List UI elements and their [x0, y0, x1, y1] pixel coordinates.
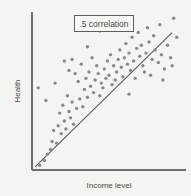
data-point [90, 56, 93, 59]
data-point [67, 110, 70, 113]
data-point [138, 55, 141, 58]
data-point [141, 64, 144, 67]
y-axis-label: Health [13, 79, 22, 102]
data-point [67, 69, 70, 72]
data-point [144, 51, 147, 54]
data-point [93, 78, 96, 81]
data-point [49, 148, 52, 151]
data-point [169, 56, 172, 59]
data-point [143, 70, 146, 73]
data-point [154, 48, 157, 51]
data-point [161, 78, 164, 81]
data-point [53, 81, 56, 84]
data-point [127, 92, 130, 95]
data-point [127, 51, 130, 54]
data-point [109, 53, 112, 56]
data-point [78, 97, 81, 100]
data-point [61, 104, 64, 107]
data-point [115, 70, 118, 73]
data-point [126, 62, 129, 65]
data-points [36, 17, 178, 167]
data-point [118, 48, 121, 51]
data-point [101, 86, 104, 89]
data-point [137, 31, 140, 34]
data-point [46, 153, 49, 156]
data-point [52, 129, 55, 132]
data-point [63, 119, 66, 122]
data-point [112, 64, 115, 67]
data-point [150, 58, 153, 61]
data-point [175, 36, 178, 39]
data-point [75, 107, 78, 110]
data-point [83, 88, 86, 91]
data-point [110, 83, 113, 86]
plot-canvas: .5 correlation Income level Health [0, 0, 191, 196]
data-point [38, 164, 41, 167]
data-point [123, 56, 126, 59]
data-point [107, 74, 110, 77]
data-point [69, 116, 72, 119]
data-point [50, 140, 53, 143]
data-point [98, 94, 101, 97]
data-point [81, 105, 84, 108]
data-point [86, 45, 89, 48]
data-point [36, 86, 39, 89]
data-point [140, 43, 143, 46]
data-point [64, 127, 67, 130]
data-point [84, 77, 87, 80]
regression-line [35, 33, 172, 167]
data-point [160, 53, 163, 56]
data-point [158, 23, 161, 26]
data-point [146, 26, 149, 29]
data-point [72, 122, 75, 125]
data-point [163, 67, 166, 70]
data-point [135, 47, 138, 50]
data-point [103, 67, 106, 70]
data-point [55, 141, 58, 144]
data-point [97, 72, 100, 75]
data-point [132, 59, 135, 62]
data-point [56, 124, 59, 127]
data-point [152, 34, 155, 37]
data-point [86, 96, 89, 99]
data-point [58, 111, 61, 114]
data-point [117, 58, 120, 61]
data-point [87, 70, 90, 73]
data-point [80, 62, 83, 65]
annotation-label: .5 correlation [79, 19, 128, 29]
data-point [133, 77, 136, 80]
data-point [129, 69, 132, 72]
data-point [89, 85, 92, 88]
data-point [95, 64, 98, 67]
data-point [130, 36, 133, 39]
data-point [121, 75, 124, 78]
x-axis-label: Income level [87, 181, 132, 190]
data-point [113, 78, 116, 81]
data-point [120, 66, 123, 69]
data-point [73, 72, 76, 75]
data-point [166, 43, 169, 46]
data-point [104, 77, 107, 80]
data-point [170, 64, 173, 67]
data-point [149, 74, 152, 77]
data-point [124, 42, 127, 45]
data-point [60, 132, 63, 135]
data-point [92, 91, 95, 94]
scatter-plot-figure: .5 correlation Income level Health [0, 0, 191, 196]
data-point [66, 94, 69, 97]
data-point [147, 40, 150, 43]
data-point [70, 100, 73, 103]
data-point [172, 17, 175, 20]
data-point [106, 59, 109, 62]
data-point [157, 61, 160, 64]
data-point [43, 159, 46, 162]
data-point [44, 99, 47, 102]
data-point [77, 80, 80, 83]
data-point [100, 81, 103, 84]
data-point [70, 58, 73, 61]
data-point [63, 59, 66, 62]
